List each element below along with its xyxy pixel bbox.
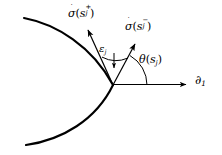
figure-canvas: ˙σ(s+j) ˙σ(s−j) εj θ(sj) ∂1 — [0, 0, 222, 155]
label-epsilon-j: εj — [99, 44, 106, 55]
sigma-plus-indices: +j — [85, 6, 90, 17]
sigma-plus-dot-accent: ˙ — [70, 4, 74, 12]
epsilon-arc — [102, 57, 128, 60]
curve-lower-branch — [26, 85, 113, 145]
sigma-minus-indices: −j — [142, 19, 147, 30]
epsilon-subscript: j — [104, 48, 106, 55]
partial-subscript: 1 — [201, 79, 206, 88]
tangent-vector-plus — [88, 30, 113, 85]
label-sigma-dot-s-j-plus: ˙σ(s+j) — [68, 6, 94, 19]
label-theta-s-j: θ(sj) — [139, 54, 162, 67]
tangent-vector-minus — [113, 44, 135, 85]
sigma-minus-dot-accent: ˙ — [127, 17, 131, 25]
theta-base: θ — [139, 53, 146, 66]
sigma-minus-subscript: j — [142, 23, 144, 30]
sigma-plus-subscript: j — [85, 10, 87, 17]
theta-close-paren: ) — [158, 53, 162, 66]
label-sigma-dot-s-j-minus: ˙σ(s−j) — [125, 19, 151, 32]
label-partial-1: ∂1 — [195, 74, 206, 88]
diagram-svg — [0, 0, 222, 155]
